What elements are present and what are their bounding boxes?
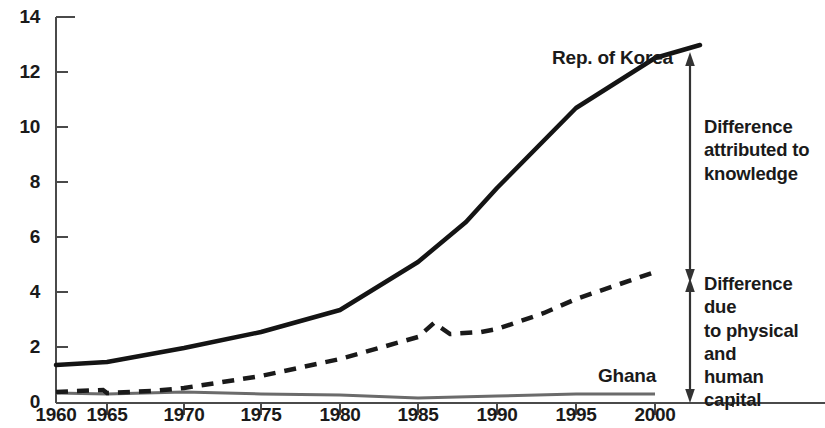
x-tick-label-1990: 1990: [462, 404, 532, 426]
x-tick-label-2000: 2000: [620, 404, 690, 426]
y-tick-label-6: 6: [6, 226, 40, 248]
chart-container: 14 12 10 8 6 4 2 0 1960 1965 1970 1975 1…: [0, 0, 825, 428]
y-tick-label-4: 4: [6, 281, 40, 303]
x-tick-label-1985: 1985: [383, 404, 453, 426]
series-label-ghana: Ghana: [598, 365, 656, 387]
annotation-capital: Difference due to physical and human cap…: [704, 272, 825, 412]
annotation-capital-line-1: Difference due: [704, 272, 825, 319]
series-label-rep-of-korea: Rep. of Korea: [552, 47, 673, 69]
x-tick-label-1965: 1965: [72, 404, 142, 426]
y-tick-label-8: 8: [6, 171, 40, 193]
series-line-rep-of-korea: [56, 45, 700, 365]
y-tick-label-14: 14: [6, 6, 40, 28]
y-tick-label-10: 10: [6, 116, 40, 138]
annotation-capital-line-3: human capital: [704, 365, 825, 412]
annotation-knowledge-line-1: Difference: [704, 115, 809, 138]
series-line-physical-human-capital: [56, 272, 655, 393]
annotation-knowledge: Difference attributed to knowledge: [704, 115, 809, 185]
chart-canvas: [0, 0, 825, 428]
y-tick-label-2: 2: [6, 336, 40, 358]
knowledge-difference-arrow: [685, 52, 695, 283]
x-tick-label-1980: 1980: [305, 404, 375, 426]
annotation-knowledge-line-2: attributed to: [704, 138, 809, 161]
annotation-knowledge-line-3: knowledge: [704, 162, 809, 185]
capital-difference-arrow: [685, 278, 695, 403]
x-tick-label-1975: 1975: [226, 404, 296, 426]
annotation-capital-line-2: to physical and: [704, 319, 825, 366]
y-axis-ticks: [56, 72, 68, 347]
y-tick-label-12: 12: [6, 61, 40, 83]
x-tick-label-1970: 1970: [149, 404, 219, 426]
x-tick-label-1995: 1995: [541, 404, 611, 426]
